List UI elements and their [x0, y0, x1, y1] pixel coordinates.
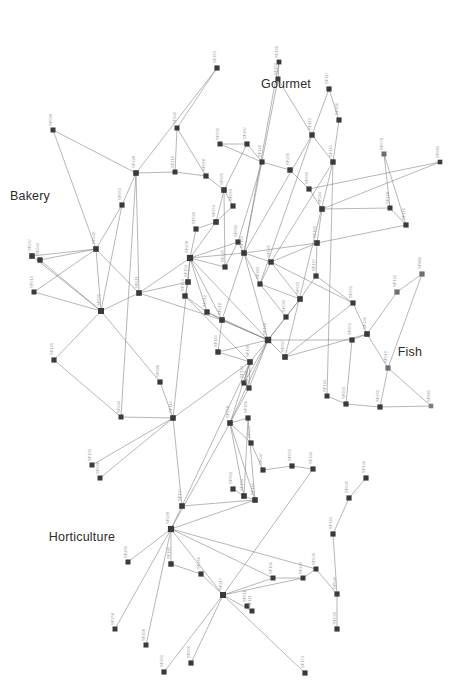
graph-node[interactable]: [204, 309, 209, 314]
graph-node[interactable]: [330, 159, 335, 164]
graph-node[interactable]: [241, 250, 247, 256]
graph-node[interactable]: [314, 240, 320, 246]
graph-node[interactable]: [349, 337, 354, 342]
graph-node[interactable]: [388, 206, 393, 211]
graph-node[interactable]: [187, 255, 193, 261]
graph-node[interactable]: [248, 440, 253, 445]
graph-node[interactable]: [309, 132, 314, 137]
graph-node[interactable]: [385, 365, 390, 370]
graph-node[interactable]: [215, 349, 220, 354]
graph-node[interactable]: [343, 401, 348, 406]
graph-node[interactable]: [37, 257, 42, 262]
graph-node[interactable]: [219, 317, 225, 323]
graph-node[interactable]: [438, 160, 443, 165]
graph-node[interactable]: [257, 281, 262, 286]
graph-node[interactable]: [382, 152, 387, 157]
graph-node[interactable]: [168, 526, 174, 532]
graph-node[interactable]: [188, 660, 193, 665]
graph-node[interactable]: [98, 308, 104, 314]
graph-node[interactable]: [252, 497, 258, 503]
graph-node[interactable]: [170, 415, 176, 421]
graph-node[interactable]: [168, 561, 173, 566]
graph-node[interactable]: [157, 379, 162, 384]
graph-node[interactable]: [289, 463, 294, 468]
graph-node[interactable]: [32, 290, 37, 295]
graph-node[interactable]: [227, 420, 233, 426]
graph-node[interactable]: [297, 296, 303, 302]
graph-node[interactable]: [346, 495, 351, 500]
graph-node[interactable]: [259, 159, 264, 164]
graph-node[interactable]: [230, 486, 235, 491]
graph-node[interactable]: [119, 415, 124, 420]
graph-node[interactable]: [119, 202, 124, 207]
graph-node[interactable]: [185, 279, 191, 285]
graph-node[interactable]: [90, 463, 95, 468]
graph-node[interactable]: [336, 117, 341, 122]
graph-node[interactable]: [310, 466, 315, 471]
graph-node[interactable]: [330, 531, 335, 536]
graph-node[interactable]: [277, 60, 282, 65]
graph-node[interactable]: [241, 493, 247, 499]
graph-node[interactable]: [247, 359, 253, 365]
graph-node[interactable]: [126, 560, 131, 565]
graph-node[interactable]: [136, 290, 142, 296]
graph-node[interactable]: [98, 476, 103, 481]
graph-node[interactable]: [313, 273, 318, 278]
graph-node[interactable]: [203, 173, 208, 178]
graph-node[interactable]: [246, 385, 251, 390]
graph-node[interactable]: [377, 404, 382, 409]
graph-node[interactable]: [403, 222, 408, 227]
graph-edge: [260, 262, 271, 284]
graph-node[interactable]: [326, 86, 331, 91]
graph-node[interactable]: [214, 65, 219, 70]
graph-node[interactable]: [276, 77, 281, 82]
graph-node[interactable]: [220, 592, 226, 598]
graph-node[interactable]: [29, 253, 35, 259]
graph-node[interactable]: [260, 467, 265, 472]
graph-node[interactable]: [334, 626, 339, 631]
graph-node[interactable]: [271, 576, 276, 581]
graph-node[interactable]: [173, 170, 178, 175]
graph-node[interactable]: [235, 239, 240, 244]
graph-node[interactable]: [350, 300, 355, 305]
graph-node[interactable]: [198, 571, 203, 576]
graph-node[interactable]: [161, 669, 166, 674]
graph-node[interactable]: [93, 246, 99, 252]
graph-node[interactable]: [325, 394, 330, 399]
graph-node[interactable]: [250, 609, 255, 614]
graph-node[interactable]: [334, 591, 339, 596]
graph-node[interactable]: [283, 314, 288, 319]
graph-node[interactable]: [175, 126, 180, 131]
graph-node[interactable]: [51, 128, 56, 133]
graph-node[interactable]: [133, 170, 139, 176]
graph-node[interactable]: [282, 354, 288, 360]
graph-node[interactable]: [241, 380, 246, 385]
graph-node[interactable]: [302, 670, 307, 675]
graph-node[interactable]: [182, 293, 187, 298]
graph-node[interactable]: [230, 203, 235, 208]
graph-node[interactable]: [363, 475, 368, 480]
graph-node[interactable]: [419, 271, 424, 276]
graph-node[interactable]: [245, 604, 250, 609]
graph-node[interactable]: [222, 264, 227, 269]
graph-node[interactable]: [265, 337, 271, 343]
graph-node[interactable]: [319, 206, 325, 212]
graph-node[interactable]: [218, 142, 223, 147]
graph-node[interactable]: [245, 415, 250, 420]
graph-node[interactable]: [221, 187, 227, 193]
graph-node[interactable]: [244, 141, 249, 146]
graph-node[interactable]: [429, 404, 434, 409]
graph-node[interactable]: [113, 627, 118, 632]
graph-node[interactable]: [179, 503, 185, 509]
graph-node[interactable]: [193, 226, 198, 231]
graph-node[interactable]: [364, 331, 370, 337]
graph-node[interactable]: [301, 576, 306, 581]
graph-node[interactable]: [314, 567, 319, 572]
graph-node[interactable]: [213, 219, 219, 225]
graph-node[interactable]: [268, 259, 273, 264]
graph-node[interactable]: [306, 186, 311, 191]
graph-node[interactable]: [51, 357, 56, 362]
graph-node[interactable]: [394, 289, 399, 294]
graph-node[interactable]: [287, 167, 292, 172]
graph-node[interactable]: [144, 643, 149, 648]
